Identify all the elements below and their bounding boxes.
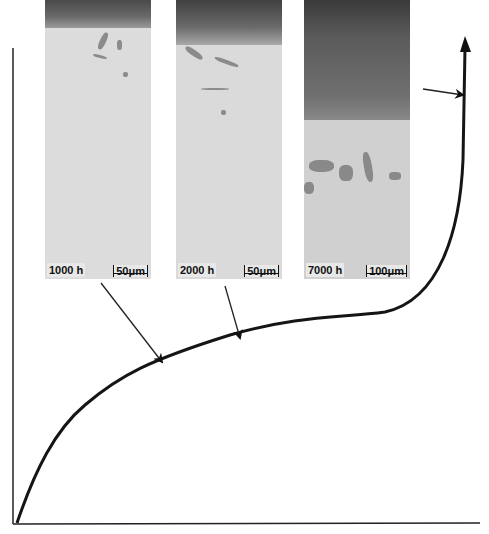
curve-arrowhead [460,36,471,52]
arrow-1000h [101,283,162,362]
growth-curve [17,48,465,523]
arrow-7000h [423,89,463,95]
x-axis [13,523,480,524]
curve-plot [0,0,489,534]
arrow-2000h [225,286,240,338]
